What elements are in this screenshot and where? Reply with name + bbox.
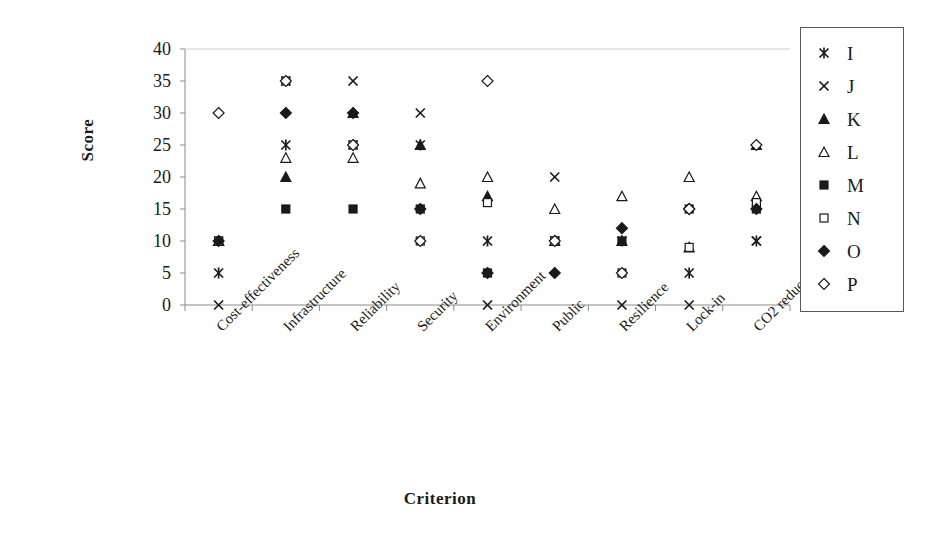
diamond-open-icon: [801, 274, 847, 294]
legend-item-L[interactable]: L: [801, 137, 905, 167]
data-point-L-1: [281, 153, 291, 163]
data-point-L-4: [483, 172, 493, 182]
asterisk-glyph: [820, 48, 829, 59]
data-point-J-2: [349, 77, 358, 86]
legend-item-P[interactable]: P: [801, 269, 905, 299]
triangle-open-glyph: [819, 147, 829, 157]
legend-label-L: L: [847, 143, 859, 162]
diamond-open-glyph: [819, 279, 830, 290]
data-point-L-6: [617, 191, 627, 201]
cross-glyph: [820, 82, 829, 91]
x-axis-title: Criterion: [330, 489, 550, 509]
square-glyph: [820, 181, 828, 189]
triangle-icon: [801, 109, 847, 129]
data-point-I-1: [281, 140, 290, 151]
data-point-J-5: [550, 173, 559, 182]
scatter-chart: Score 0510152025303540 Cost-effectivenes…: [0, 0, 941, 545]
data-point-I-7: [685, 268, 694, 279]
legend-label-P: P: [847, 275, 858, 294]
data-point-M-1: [282, 205, 290, 213]
data-point-L-7: [684, 172, 694, 182]
data-point-P-0: [213, 108, 224, 119]
triangle-glyph: [819, 114, 829, 124]
data-point-O-6: [616, 223, 627, 234]
legend-label-K: K: [847, 110, 861, 129]
y-axis-ticks: [180, 49, 185, 305]
square-open-icon: [801, 208, 847, 228]
diamond-icon: [801, 241, 847, 261]
square-icon: [801, 175, 847, 195]
data-point-O-5: [549, 268, 560, 279]
legend-label-I: I: [847, 44, 853, 63]
data-point-N-4: [484, 199, 492, 207]
legend-label-J: J: [847, 77, 854, 96]
legend-item-I[interactable]: I: [801, 38, 905, 68]
data-points: [213, 76, 762, 310]
legend-label-N: N: [847, 209, 861, 228]
data-point-L-2: [348, 153, 358, 163]
data-point-I-4: [483, 236, 492, 247]
legend-item-M[interactable]: M: [801, 170, 905, 200]
square-open-glyph: [820, 214, 828, 222]
asterisk-icon: [801, 43, 847, 63]
data-point-L-5: [550, 204, 560, 214]
data-point-M-2: [349, 205, 357, 213]
legend-item-N[interactable]: N: [801, 203, 905, 233]
legend: IJKLMNOP: [800, 27, 904, 312]
legend-item-K[interactable]: K: [801, 104, 905, 134]
legend-label-M: M: [847, 176, 864, 195]
data-point-K-1: [281, 172, 291, 182]
data-point-I-0: [214, 268, 223, 279]
data-point-L-3: [415, 178, 425, 188]
data-point-P-4: [482, 76, 493, 87]
cross-icon: [801, 76, 847, 96]
legend-item-O[interactable]: O: [801, 236, 905, 266]
data-point-M-6: [618, 237, 626, 245]
legend-item-J[interactable]: J: [801, 71, 905, 101]
data-point-J-3: [416, 109, 425, 118]
legend-label-O: O: [847, 242, 861, 261]
triangle-open-icon: [801, 142, 847, 162]
diamond-glyph: [819, 246, 830, 257]
data-point-O-1: [280, 108, 291, 119]
data-point-N-7: [685, 243, 693, 251]
